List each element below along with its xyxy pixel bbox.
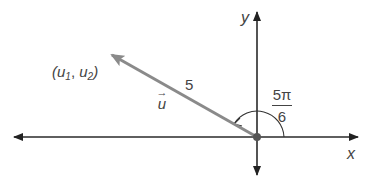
angle-numerator: 5π xyxy=(273,86,292,103)
u2-base: u xyxy=(79,63,87,80)
vector-letter: u xyxy=(155,96,169,111)
y-axis-label: y xyxy=(241,10,249,26)
fraction-bar xyxy=(272,105,292,106)
separator: , xyxy=(71,63,79,80)
vector-name-label: → u xyxy=(155,88,169,111)
angle-label: 5π 6 xyxy=(272,86,292,125)
vector-u xyxy=(112,55,257,137)
paren-close: ) xyxy=(93,63,98,80)
endpoint-label: (u1, u2) xyxy=(52,64,98,82)
magnitude-label: 5 xyxy=(185,77,193,92)
origin-point xyxy=(253,133,261,141)
diagram-canvas xyxy=(0,0,366,176)
x-axis-label: x xyxy=(347,146,355,162)
angle-denominator: 6 xyxy=(278,108,286,125)
